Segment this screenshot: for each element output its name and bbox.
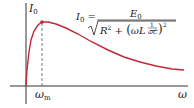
- formula-exponent: 2: [163, 22, 167, 28]
- y-axis-label: I0: [29, 3, 38, 16]
- formula-close-paren: ): [158, 23, 163, 35]
- peak-marker: [40, 20, 44, 24]
- chart-svg: [0, 0, 194, 108]
- formula-numerator: E0: [130, 9, 142, 21]
- inner-frac-den: ωC: [148, 29, 157, 35]
- resonance-chart: I0 ωm ω I0 = E0 R2 + (ωL − 1 ωC ) 2: [0, 0, 194, 108]
- formula-lhs: I0 =: [76, 12, 96, 24]
- x-axis-label: ω: [178, 89, 187, 100]
- peak-x-label: ωm: [35, 89, 51, 102]
